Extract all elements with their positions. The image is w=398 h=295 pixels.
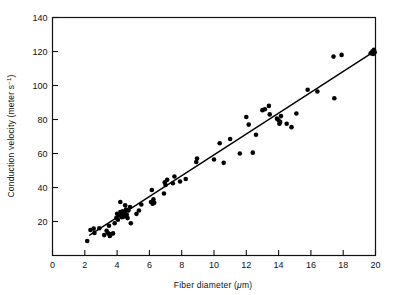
regression-line: [90, 51, 376, 235]
data-point: [107, 223, 112, 228]
data-point: [171, 181, 176, 186]
x-tick-label: 6: [147, 260, 152, 270]
scatter-plot-figure: 02468101214161820 20406080100120140 Fibe…: [0, 0, 398, 295]
data-point: [128, 205, 133, 210]
x-tick-label: 16: [306, 260, 316, 270]
data-point: [92, 231, 97, 236]
y-tick-label: 100: [32, 81, 47, 91]
data-point: [332, 96, 337, 101]
data-point: [112, 221, 117, 226]
data-point: [162, 191, 167, 196]
data-point: [250, 150, 255, 155]
data-point: [129, 221, 134, 226]
data-point: [97, 226, 102, 231]
fit-line: [90, 51, 376, 235]
x-tick-label: 2: [82, 260, 87, 270]
data-point: [165, 178, 170, 183]
data-point: [294, 111, 299, 116]
data-point: [195, 156, 200, 161]
data-point: [116, 218, 121, 223]
x-tick-label: 20: [370, 260, 380, 270]
data-point: [278, 120, 283, 125]
y-axis-ticks: [53, 18, 59, 222]
data-point: [183, 177, 188, 182]
y-tick-label: 80: [37, 115, 47, 125]
x-tick-label: 8: [179, 260, 184, 270]
data-point: [172, 174, 177, 179]
data-point: [246, 122, 251, 127]
y-tick-label: 140: [32, 13, 47, 23]
data-point: [254, 133, 259, 138]
data-point: [339, 53, 344, 58]
x-tick-label: 4: [115, 260, 120, 270]
data-point: [221, 161, 226, 166]
y-axis-tick-labels: 20406080100120140: [32, 13, 47, 227]
x-axis-title: Fiber diameter (μm): [174, 280, 252, 290]
x-tick-label: 14: [274, 260, 284, 270]
data-point: [152, 201, 157, 206]
y-axis-title: Conduction velocity (meter s−1): [6, 74, 16, 197]
y-tick-label: 40: [37, 183, 47, 193]
data-point: [267, 104, 272, 109]
data-point: [85, 239, 90, 244]
data-points: [85, 48, 377, 244]
data-point: [238, 151, 243, 156]
data-point: [372, 50, 377, 55]
x-tick-label: 12: [241, 260, 251, 270]
data-point: [150, 188, 155, 193]
data-point: [244, 115, 249, 120]
data-point: [178, 179, 183, 184]
y-tick-label: 60: [37, 149, 47, 159]
plot-border: [53, 18, 376, 256]
x-tick-label: 18: [338, 260, 348, 270]
data-point: [163, 183, 168, 188]
data-point: [263, 107, 268, 112]
data-point: [137, 208, 142, 213]
data-point: [228, 137, 233, 142]
data-point: [125, 216, 130, 221]
data-point: [102, 233, 107, 238]
plot-frame: [53, 18, 376, 256]
data-point: [139, 202, 144, 207]
data-point: [267, 112, 272, 117]
data-point: [305, 87, 310, 92]
y-tick-label: 120: [32, 47, 47, 57]
data-point: [123, 203, 128, 208]
data-point: [111, 231, 116, 236]
data-point: [284, 121, 289, 126]
x-tick-label: 0: [50, 260, 55, 270]
data-point: [289, 125, 294, 130]
chart-canvas: 02468101214161820 20406080100120140 Fibe…: [0, 0, 398, 295]
x-axis-tick-labels: 02468101214161820: [50, 260, 381, 270]
data-point: [279, 114, 284, 119]
y-tick-label: 20: [37, 217, 47, 227]
data-point: [331, 54, 336, 59]
x-tick-label: 10: [209, 260, 219, 270]
data-point: [315, 89, 320, 94]
data-point: [212, 157, 217, 162]
data-point: [91, 226, 96, 231]
x-axis-ticks: [53, 250, 376, 256]
data-point: [217, 141, 222, 146]
data-point: [118, 200, 123, 205]
